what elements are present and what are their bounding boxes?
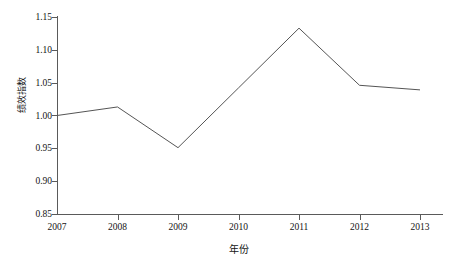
x-axis-tick-label: 2007 [34,222,80,233]
y-axis-tick-mark [52,148,57,149]
y-axis-tick-label: 0.85 [22,209,52,219]
x-axis-tick-label: 2010 [216,222,262,233]
series-line-performance-index [57,28,420,148]
x-axis-tick-mark [118,215,119,220]
x-axis-tick-label: 2013 [397,222,443,233]
y-axis-tick-label: 1.10 [22,45,52,55]
y-axis-tick-mark [52,17,57,18]
y-axis-tick-label: 1.05 [22,78,52,88]
x-axis-tick-label: 2009 [155,222,201,233]
x-axis-tick-mark [178,215,179,220]
x-axis-tick-mark [420,215,421,220]
y-axis-tick-mark [52,83,57,84]
y-axis-tick-label: 1.15 [22,12,52,22]
y-axis-tick-label: 0.90 [22,176,52,186]
data-line-svg [57,17,443,214]
y-axis-tick-label: 0.95 [22,143,52,153]
y-axis-tick-label: 1.00 [22,111,52,121]
y-axis-tick-mark [52,181,57,182]
x-axis-tick-mark [299,215,300,220]
x-axis-tick-label: 2008 [95,222,141,233]
x-axis-tick-mark [360,215,361,220]
x-axis-tick-label: 2012 [337,222,383,233]
x-axis-tick-label: 2011 [276,222,322,233]
line-chart: 绩效指数 0.850.900.951.001.051.101.15 年份 200… [0,0,453,270]
x-axis-title: 年份 [0,243,453,256]
plot-area [57,17,443,214]
y-axis-tick-mark [52,214,57,215]
y-axis-tick-mark [52,115,57,116]
y-axis-tick-mark [52,50,57,51]
x-axis-tick-mark [239,215,240,220]
x-axis-spine [57,214,443,215]
